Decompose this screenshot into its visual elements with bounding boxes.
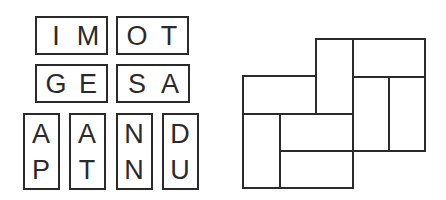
grid-slot-vertical[interactable] (388, 76, 426, 152)
tile-letter: O (122, 23, 152, 50)
horizontal-tile[interactable]: I M (35, 16, 108, 55)
tile-letter: N (119, 157, 149, 184)
vertical-tile[interactable]: A T (69, 113, 106, 190)
tile-letter: M (73, 23, 103, 50)
tile-letter: E (73, 71, 103, 98)
tile-letter: A (26, 121, 56, 148)
tile-letter: S (122, 71, 152, 98)
grid-slot-horizontal[interactable] (279, 150, 354, 189)
tile-letter: P (26, 157, 56, 184)
tile-letter: T (154, 23, 184, 50)
horizontal-tile[interactable]: S A (116, 64, 190, 103)
tile-letter: I (41, 23, 71, 50)
horizontal-tile[interactable]: G E (35, 64, 108, 103)
tile-letter: T (72, 157, 102, 184)
vertical-tile[interactable]: D U (162, 113, 199, 190)
tile-letter: N (119, 121, 149, 148)
tile-letter: A (155, 71, 185, 98)
grid-slot-vertical[interactable] (315, 38, 354, 115)
grid-slot-horizontal[interactable] (279, 113, 354, 152)
horizontal-tile[interactable]: O T (116, 16, 189, 55)
tile-letter: A (72, 121, 102, 148)
vertical-tile[interactable]: A P (23, 113, 60, 190)
grid-slot-horizontal[interactable] (352, 38, 426, 78)
tile-letter: D (165, 121, 195, 148)
tile-letter: U (165, 157, 195, 184)
grid-slot-vertical[interactable] (352, 76, 390, 152)
tile-letter: G (41, 71, 71, 98)
grid-slot-horizontal[interactable] (242, 75, 317, 115)
vertical-tile[interactable]: N N (116, 113, 153, 190)
grid-slot-vertical[interactable] (242, 113, 281, 189)
